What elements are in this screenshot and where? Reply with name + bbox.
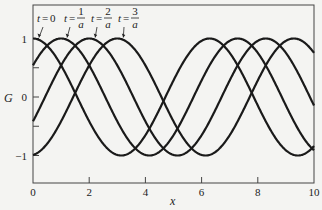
svg-text:1: 1 — [78, 5, 84, 17]
svg-text:t: t — [91, 12, 95, 24]
svg-text:3: 3 — [132, 5, 138, 17]
svg-text:t: t — [118, 12, 122, 24]
svg-text:=: = — [69, 12, 75, 24]
y-axis-label: G — [4, 91, 13, 105]
svg-text:t: t — [37, 12, 41, 24]
y-tick-label: 0 — [22, 91, 28, 103]
svg-text:2: 2 — [105, 5, 111, 17]
svg-text:=: = — [42, 12, 48, 24]
series-annotation: t=3a — [118, 5, 139, 38]
svg-text:0: 0 — [50, 12, 56, 24]
series-line-t-3-a — [33, 39, 314, 156]
x-tick-label: 8 — [255, 186, 261, 198]
svg-text:=: = — [123, 12, 129, 24]
x-tick-label: 0 — [30, 186, 36, 198]
x-tick-label: 10 — [309, 186, 321, 198]
series-annotation: t=1a — [64, 5, 85, 38]
chart: −101 0246810 t=0t=1at=2at=3a G x — [0, 0, 322, 210]
svg-text:a: a — [78, 18, 84, 30]
x-tick-label: 4 — [143, 186, 149, 198]
svg-text:a: a — [105, 18, 111, 30]
svg-text:t: t — [64, 12, 68, 24]
series-annotation: t=2a — [91, 5, 112, 38]
svg-text:a: a — [132, 18, 138, 30]
x-tick-label: 6 — [199, 186, 205, 198]
x-axis-label: x — [169, 194, 176, 208]
series-annotation: t=0 — [37, 12, 56, 38]
y-tick-label: −1 — [15, 150, 27, 162]
y-tick-label: 1 — [22, 33, 28, 45]
svg-text:=: = — [96, 12, 102, 24]
x-tick-label: 2 — [86, 186, 92, 198]
